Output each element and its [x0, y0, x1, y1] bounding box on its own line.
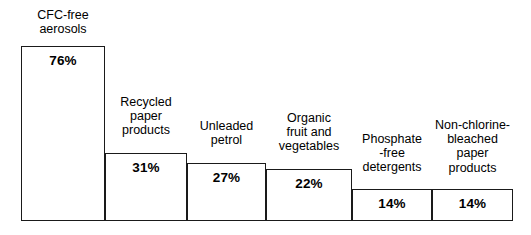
- bar-non-chlorine-bleached-paper-products: 14%: [432, 189, 513, 221]
- bar-category-label-unleaded-petrol: Unleaded petrol: [181, 119, 272, 147]
- bar-value-label: 31%: [106, 160, 186, 175]
- label-line: Phosphate: [346, 132, 438, 146]
- bar-category-label-phosphate-free-detergents: Phosphate -free detergents: [346, 132, 438, 175]
- bar-category-label-non-chlorine-bleached-paper-products: Non-chlorine- bleached paper products: [424, 118, 521, 175]
- label-line: fruit and: [262, 125, 356, 139]
- bar-unleaded-petrol: 27%: [187, 163, 266, 221]
- bar-value-label: 14%: [353, 196, 431, 211]
- label-line: Recycled: [99, 95, 193, 109]
- label-line: -free: [346, 146, 438, 160]
- bar-category-label-organic-fruit-and-vegetables: Organic fruit and vegetables: [262, 111, 356, 154]
- label-line: bleached: [424, 132, 521, 146]
- plot-area: 76% CFC-free aerosols 31% Recycled paper…: [21, 0, 513, 221]
- label-line: CFC-free: [17, 8, 109, 22]
- label-line: Organic: [262, 111, 356, 125]
- bar-cfc-free-aerosols: 76%: [21, 46, 105, 221]
- label-line: paper: [99, 109, 193, 123]
- bar-value-label: 22%: [267, 176, 351, 191]
- bar-value-label: 14%: [433, 196, 512, 211]
- label-line: aerosols: [17, 22, 109, 36]
- chart-baseline: [21, 220, 513, 222]
- label-line: products: [99, 123, 193, 137]
- bar-chart: 76% CFC-free aerosols 31% Recycled paper…: [0, 0, 531, 235]
- bar-category-label-recycled-paper-products: Recycled paper products: [99, 95, 193, 138]
- label-line: products: [424, 161, 521, 175]
- bar-phosphate-free-detergents: 14%: [352, 189, 432, 221]
- label-line: detergents: [346, 160, 438, 174]
- bar-recycled-paper-products: 31%: [105, 153, 187, 221]
- bar-value-label: 76%: [22, 53, 104, 68]
- label-line: Unleaded: [181, 119, 272, 133]
- bar-organic-fruit-and-vegetables: 22%: [266, 169, 352, 221]
- label-line: Non-chlorine-: [424, 118, 521, 132]
- label-line: petrol: [181, 133, 272, 147]
- label-line: paper: [424, 146, 521, 160]
- label-line: vegetables: [262, 139, 356, 153]
- bar-value-label: 27%: [188, 170, 265, 185]
- bar-category-label-cfc-free-aerosols: CFC-free aerosols: [17, 8, 109, 36]
